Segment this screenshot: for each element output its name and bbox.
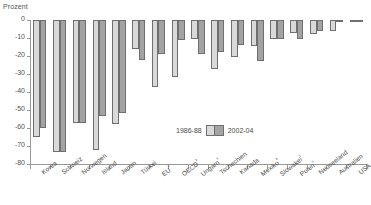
- bar: [356, 20, 363, 22]
- bar: [297, 20, 304, 39]
- y-tick: -40: [0, 92, 30, 93]
- y-tick-mark: [27, 128, 30, 129]
- bar: [73, 20, 80, 123]
- chart-legend: 1986-88 2002-04: [176, 125, 253, 136]
- bar: [60, 20, 67, 152]
- bar: [257, 20, 264, 61]
- y-tick-label: 0: [21, 15, 25, 22]
- bar: [119, 20, 126, 113]
- legend-label-series1: 1986-88: [176, 127, 202, 134]
- y-tick: -70: [0, 146, 30, 147]
- bar: [336, 20, 343, 22]
- bar: [231, 20, 238, 57]
- y-tick: -30: [0, 74, 30, 75]
- y-tick-label: -20: [15, 51, 25, 58]
- legend-swatch-series1: [206, 125, 215, 136]
- bar: [238, 20, 245, 45]
- bar: [218, 20, 225, 52]
- y-tick-mark: [27, 92, 30, 93]
- bar: [211, 20, 218, 69]
- y-tick: 0: [0, 20, 30, 21]
- y-tick: -50: [0, 110, 30, 111]
- bar: [93, 20, 100, 150]
- y-tick-mark: [27, 146, 30, 147]
- y-tick: -60: [0, 128, 30, 129]
- y-tick-mark: [27, 20, 30, 21]
- bar: [330, 20, 337, 31]
- bar: [99, 20, 106, 116]
- bar: [152, 20, 159, 87]
- bar: [290, 20, 297, 33]
- legend-swatches: [206, 125, 224, 136]
- legend-label-series2: 2002-04: [228, 127, 254, 134]
- y-tick-mark: [27, 74, 30, 75]
- y-tick-label: -30: [15, 69, 25, 76]
- bar: [40, 20, 47, 128]
- bar: [251, 20, 258, 46]
- y-tick: -80: [0, 164, 30, 165]
- bar: [158, 20, 165, 54]
- bar: [139, 20, 146, 60]
- bar: [112, 20, 119, 124]
- legend-swatch-series2: [215, 125, 224, 136]
- y-tick-label: -80: [15, 159, 25, 166]
- bar: [350, 20, 357, 22]
- bar: [79, 20, 86, 123]
- bar: [53, 20, 60, 152]
- y-tick-label: -50: [15, 105, 25, 112]
- y-tick-mark: [27, 56, 30, 57]
- bar-chart: Prozent 0-10-20-30-40-50-60-70-80 KoreaS…: [0, 0, 371, 205]
- y-tick: -20: [0, 56, 30, 57]
- y-tick: -10: [0, 38, 30, 39]
- y-tick-mark: [27, 110, 30, 111]
- bar: [198, 20, 205, 54]
- bar: [270, 20, 277, 39]
- bar: [277, 20, 284, 39]
- y-tick-label: -10: [15, 33, 25, 40]
- x-tick-mark: [30, 165, 31, 169]
- bar: [33, 20, 40, 137]
- bar: [178, 20, 185, 40]
- bar: [191, 20, 198, 39]
- bar: [172, 20, 179, 77]
- bar: [317, 20, 324, 31]
- x-axis-label: EU²: [159, 163, 173, 177]
- y-tick-label: -40: [15, 87, 25, 94]
- bar: [310, 20, 317, 34]
- bar: [132, 20, 139, 49]
- y-tick-label: -60: [15, 123, 25, 130]
- y-tick-mark: [27, 38, 30, 39]
- y-axis-title: Prozent: [3, 3, 28, 10]
- y-tick-label: -70: [15, 141, 25, 148]
